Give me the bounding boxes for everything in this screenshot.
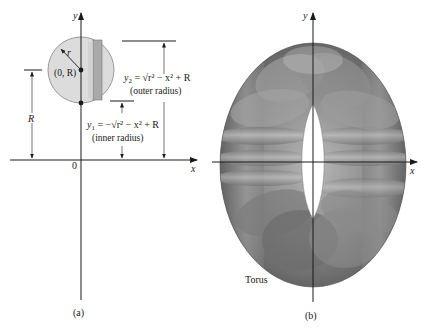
y-axis-label-b: y	[302, 10, 308, 21]
inner-equation-text: y1 = −√r² − x² + R	[86, 119, 159, 132]
R-label: R	[27, 113, 34, 124]
center-point	[79, 68, 84, 73]
center-label: (0, R)	[54, 68, 76, 79]
radius-label: r	[67, 47, 71, 58]
origin-label: 0	[72, 160, 77, 171]
figure-canvas: y x 0 r (0, R) R y2 = √r² − x² + R (oute…	[0, 0, 427, 331]
inner-radius-description: (inner radius)	[92, 133, 143, 144]
x-axis-label-a: x	[190, 163, 196, 174]
outer-rhs: = √r² − x² + R	[132, 72, 191, 83]
vertical-strip	[93, 40, 102, 100]
caption-b: (b)	[305, 310, 317, 322]
panel-b: y x Torus (b)	[212, 10, 417, 322]
bottom-point	[79, 101, 84, 106]
inner-rhs: = −√r² − x² + R	[95, 119, 159, 130]
outer-equation-text: y2 = √r² − x² + R	[123, 72, 191, 85]
inner-radius-equation: y1 = −√r² − x² + R (inner radius)	[86, 119, 159, 144]
y-axis-label-a: y	[72, 10, 78, 21]
outer-radius-description: (outer radius)	[130, 86, 181, 97]
caption-a: (a)	[73, 307, 84, 319]
torus-label: Torus	[245, 274, 268, 285]
panel-a: y x 0 r (0, R) R y2 = √r² − x² + R (oute…	[10, 10, 197, 319]
vertical-strip-face	[88, 42, 93, 98]
x-axis-label-b: x	[409, 165, 415, 176]
outer-radius-equation: y2 = √r² − x² + R (outer radius)	[123, 72, 191, 97]
